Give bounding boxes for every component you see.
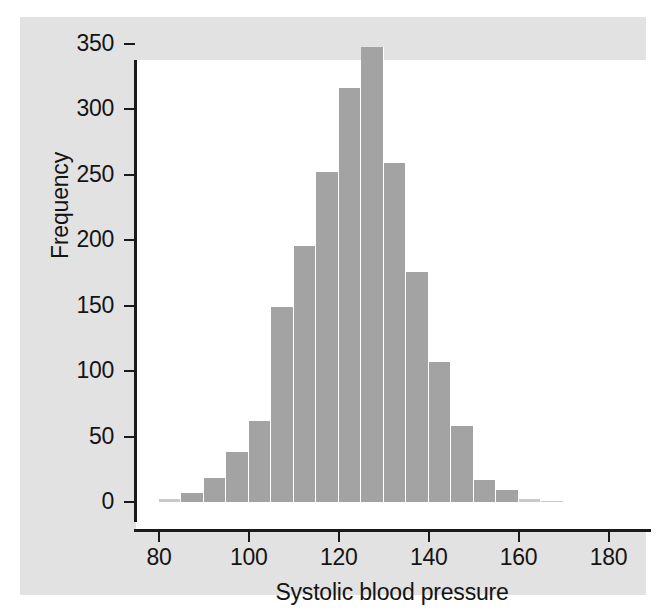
y-axis-tick-label: 350 bbox=[42, 32, 114, 55]
x-axis-tick bbox=[158, 530, 160, 542]
histogram-bar bbox=[294, 246, 316, 502]
page-sheet: 050100150200250300350 80100120140160180 … bbox=[20, 17, 646, 595]
x-axis-label: Systolic blood pressure bbox=[136, 579, 648, 606]
y-axis-tick bbox=[124, 43, 135, 45]
x-axis-tick bbox=[248, 530, 250, 542]
histogram-bar bbox=[406, 272, 428, 502]
x-axis-tick bbox=[338, 530, 340, 542]
histogram-bar bbox=[249, 421, 271, 502]
histogram-bar bbox=[451, 426, 473, 502]
y-axis-tick bbox=[124, 174, 135, 176]
y-axis-line bbox=[134, 60, 137, 522]
y-axis-tick bbox=[124, 436, 135, 438]
y-axis-tick bbox=[124, 370, 135, 372]
y-axis-tick bbox=[124, 501, 135, 503]
figure-root: 050100150200250300350 80100120140160180 … bbox=[0, 0, 666, 614]
histogram-bar bbox=[159, 499, 181, 502]
x-axis-tick-label: 180 bbox=[574, 546, 644, 569]
x-axis-tick-label: 120 bbox=[304, 546, 374, 569]
y-axis-tick-label: 0 bbox=[42, 490, 114, 513]
histogram-bar bbox=[519, 499, 541, 502]
x-axis-tick-label: 80 bbox=[124, 546, 194, 569]
histogram-bar bbox=[496, 490, 518, 502]
histogram-bar bbox=[204, 478, 226, 502]
x-axis-tick bbox=[428, 530, 430, 542]
histogram-bar bbox=[226, 452, 248, 502]
histogram-bar bbox=[384, 163, 406, 502]
histogram-bar bbox=[271, 307, 293, 502]
histogram-bar bbox=[339, 88, 361, 502]
x-axis-tick bbox=[608, 530, 610, 542]
histogram-bar bbox=[474, 480, 496, 502]
y-axis-label-wrapper: Frequency bbox=[47, 96, 74, 316]
y-axis-tick-label: 50 bbox=[42, 425, 114, 448]
histogram-bar bbox=[429, 362, 451, 502]
histogram-bar bbox=[361, 47, 383, 502]
y-axis-tick bbox=[124, 305, 135, 307]
y-axis-label: Frequency bbox=[47, 152, 73, 259]
y-axis-tick-label: 100 bbox=[42, 359, 114, 382]
x-axis-line bbox=[134, 529, 651, 532]
x-axis-tick-label: 140 bbox=[394, 546, 464, 569]
x-axis-tick-label: 160 bbox=[484, 546, 554, 569]
histogram-bar bbox=[316, 172, 338, 502]
x-axis-tick bbox=[518, 530, 520, 542]
y-axis-tick bbox=[124, 239, 135, 241]
histogram-bar bbox=[541, 501, 563, 503]
x-axis-tick-label: 100 bbox=[214, 546, 284, 569]
y-axis-tick bbox=[124, 108, 135, 110]
histogram-bar bbox=[181, 493, 203, 502]
